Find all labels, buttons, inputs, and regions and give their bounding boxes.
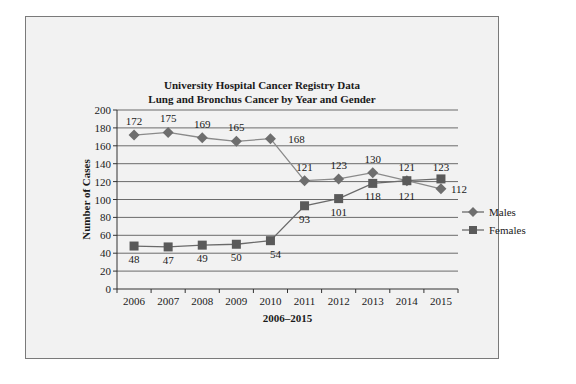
- males-marker: [163, 127, 174, 138]
- x-tick-label: 2007: [157, 295, 180, 307]
- y-tick-label: 40: [100, 247, 112, 259]
- females-data-label: 50: [231, 251, 243, 263]
- males-marker: [197, 132, 208, 143]
- males-marker: [367, 167, 378, 178]
- males-marker: [333, 173, 344, 184]
- males-data-label: 169: [194, 118, 211, 130]
- females-data-label: 101: [330, 206, 347, 218]
- females-data-label: 121: [399, 190, 416, 202]
- y-tick-label: 120: [95, 176, 112, 188]
- females-marker: [232, 240, 241, 249]
- females-marker: [130, 242, 139, 251]
- females-marker: [266, 236, 275, 245]
- x-tick-label: 2012: [328, 295, 350, 307]
- males-data-label: 172: [126, 115, 143, 127]
- females-data-label: 93: [299, 213, 311, 225]
- y-tick-label: 0: [106, 283, 112, 295]
- y-tick-label: 180: [95, 122, 112, 134]
- females-marker: [334, 194, 343, 203]
- females-marker: [402, 176, 411, 185]
- x-tick-label: 2011: [294, 295, 316, 307]
- females-data-label: 48: [129, 253, 141, 265]
- males-data-label: 121: [399, 161, 416, 173]
- males-data-label: 123: [330, 159, 347, 171]
- x-tick-label: 2013: [362, 295, 385, 307]
- females-data-label: 49: [197, 252, 209, 264]
- females-marker: [436, 174, 445, 183]
- y-tick-label: 60: [100, 229, 112, 241]
- legend-label: Males: [489, 206, 516, 218]
- females-data-label: 54: [270, 248, 282, 260]
- x-tick-label: 2014: [396, 295, 419, 307]
- males-data-label: 165: [228, 121, 245, 133]
- males-data-label: 130: [365, 153, 382, 165]
- x-tick-label: 2008: [191, 295, 214, 307]
- males-data-label: 121: [296, 161, 313, 173]
- legend-diamond-icon: [468, 207, 478, 217]
- y-tick-label: 200: [95, 104, 112, 116]
- y-tick-label: 140: [95, 158, 112, 170]
- females-marker: [198, 241, 207, 250]
- legend-label: Females: [489, 224, 526, 236]
- y-axis-label: Number of Cases: [80, 159, 92, 240]
- y-tick-label: 20: [100, 265, 112, 277]
- males-data-label: 112: [451, 183, 467, 195]
- x-axis-label: 2006–2015: [263, 312, 313, 324]
- females-data-label: 47: [163, 254, 175, 266]
- y-tick-label: 160: [95, 140, 112, 152]
- x-tick-label: 2010: [259, 295, 282, 307]
- x-tick-label: 2006: [123, 295, 146, 307]
- x-tick-label: 2009: [225, 295, 248, 307]
- y-tick-label: 100: [95, 194, 112, 206]
- y-tick-label: 80: [100, 211, 112, 223]
- males-data-label: 175: [160, 112, 177, 124]
- males-marker: [435, 183, 446, 194]
- males-data-label: 168: [288, 133, 305, 145]
- females-data-label: 123: [433, 161, 450, 173]
- females-line: [134, 179, 441, 247]
- females-marker: [300, 201, 309, 210]
- males-marker: [129, 130, 140, 141]
- females-marker: [368, 179, 377, 188]
- males-marker: [231, 136, 242, 147]
- females-data-label: 118: [365, 190, 382, 202]
- legend-square-icon: [469, 226, 477, 234]
- line-chart: 0204060801001201401601802002006200720082…: [0, 0, 576, 384]
- females-marker: [164, 242, 173, 251]
- x-tick-label: 2015: [430, 295, 453, 307]
